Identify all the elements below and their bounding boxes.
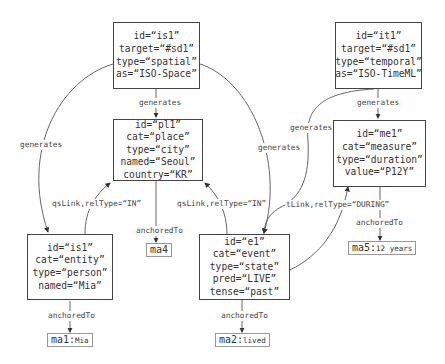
attr-country: country=“KR” [123,169,192,182]
anchor-id: ma5: [352,242,376,253]
attr-tense: tense=“past” [210,286,279,299]
label-generates-is1-e1: generates [257,143,301,153]
node-me1-measure: id=“me1” cat=“measure” type=“duration” v… [333,120,426,187]
anchor-text: lived [243,336,266,345]
anchor-id: ma2: [219,334,243,345]
attr-as: as=“ISO-Space” [116,68,197,81]
anchor-text: 12 years [376,244,412,253]
anchor-ma1: ma1:Mia [47,333,93,347]
label-generates-it1-me1: generates [356,98,400,108]
attr-as: as=“ISO-TimeML” [335,68,422,81]
attr-id: id=“e1” [224,236,264,249]
attr-cat: cat=“measure” [342,141,417,154]
label-anchored-pl1: anchoredTo [135,226,184,236]
attr-value: value=“P12Y” [345,166,414,179]
attr-named: named=“Seoul” [120,156,195,169]
attr-cat: cat=“entity” [35,254,104,267]
label-qslink-person: qsLink,relType=“IN” [51,199,142,209]
attr-id: id=“is1” [133,30,179,43]
anchor-ma5: ma5:12 years [348,241,416,255]
node-pl1-place: id=“pl1” cat=“place” type=“city” named=“… [113,119,203,181]
attr-named: named=“Mia” [38,280,102,293]
attr-id: id=“me1” [356,128,402,141]
attr-type: type=“spatial” [116,56,197,69]
attr-id: id=“it1” [355,30,401,43]
anchor-id: ma1: [51,334,75,345]
attr-target: target=“#sd1” [341,43,416,56]
attr-cat: cat=“place” [126,131,190,144]
attr-type: type=“state” [210,261,279,274]
attr-pred: pred=“LIVE” [213,273,277,286]
attr-type: type=“person” [32,267,107,280]
node-is1-person: id=“is1” cat=“entity” type=“person” name… [27,234,113,300]
attr-cat: cat=“event” [213,248,277,261]
anchor-ma4: ma4 [146,243,172,257]
anchor-ma2: ma2:lived [215,333,270,347]
node-is1-spatial: id=“is1” target=“#sd1” type=“spatial” as… [113,22,200,89]
label-anchored-e1: anchoredTo [220,311,269,321]
anchor-text: Mia [75,336,89,345]
anchor-id: ma4 [150,244,168,255]
label-generates-it1-e1: generates [289,123,333,133]
label-anchored-me1: anchoredTo [355,218,404,228]
attr-id: id=“pl1” [135,119,181,132]
label-generates-is1-person: generates [19,140,63,150]
label-anchored-person: anchoredTo [47,311,96,321]
label-tlink-e1: tLink,relType=“DURING” [285,200,390,210]
attr-type: type=“city” [126,144,190,157]
attr-type: type=“duration” [336,154,423,167]
label-generates-is1-pl1: generates [138,98,182,108]
attr-id: id=“is1” [47,242,93,255]
node-it1-temporal: id=“it1” target=“#sd1” type=“temporal” a… [335,22,422,89]
label-qslink-e1: qsLink,relType=“IN” [176,199,267,209]
attr-target: target=“#sd1” [119,43,194,56]
node-e1-event: id=“e1” cat=“event” type=“state” pred=“L… [199,234,290,300]
attr-type: type=“temporal” [335,56,422,69]
